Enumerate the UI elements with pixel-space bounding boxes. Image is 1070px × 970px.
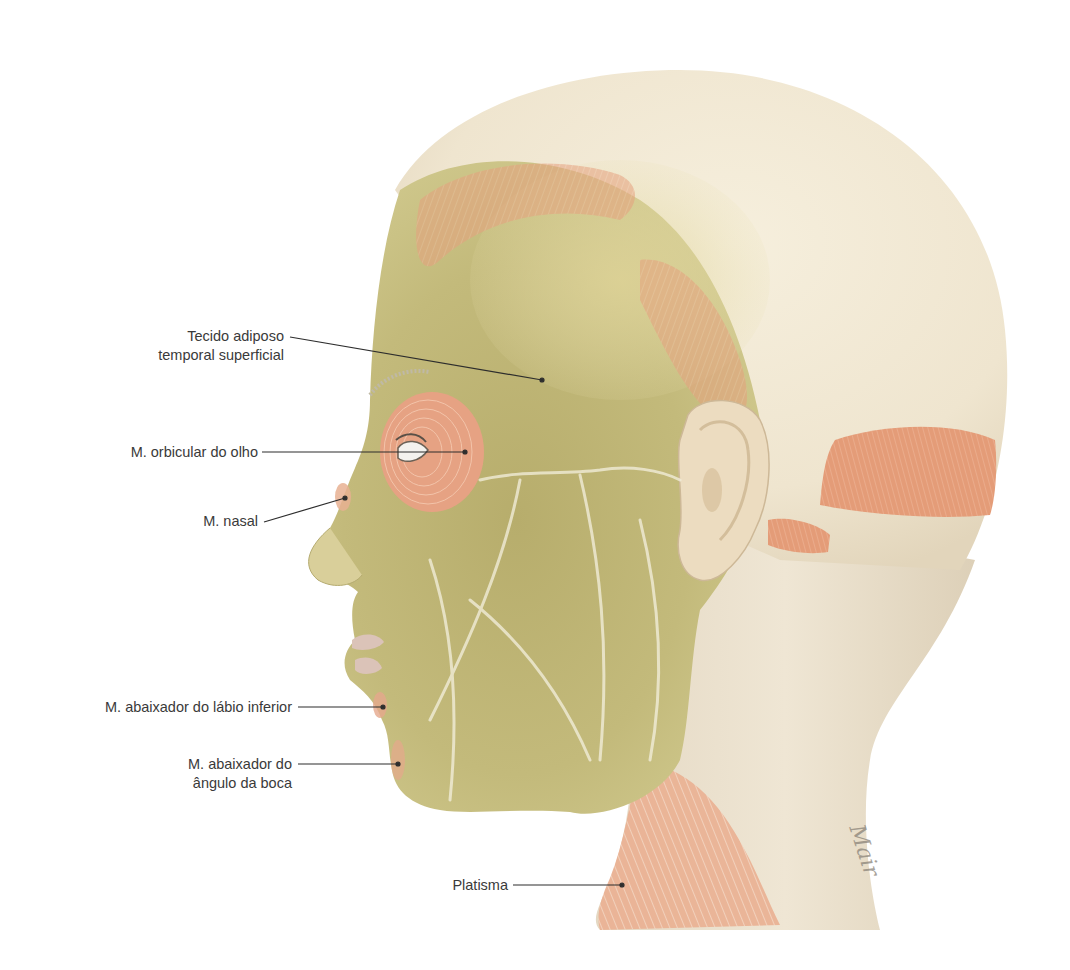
label-line: M. nasal: [203, 512, 258, 531]
label-line: M. abaixador do: [188, 755, 292, 774]
label-abaixador-angulo: M. abaixador do ângulo da boca: [188, 755, 292, 793]
label-line: temporal superficial: [158, 346, 284, 365]
anatomy-illustration: [0, 0, 1070, 970]
occipital-muscle: [820, 427, 996, 517]
depressor-labii-muscle: [373, 692, 387, 718]
label-line: Platisma: [452, 876, 508, 895]
label-orbicular-olho: M. orbicular do olho: [131, 443, 258, 462]
label-platisma: Platisma: [452, 876, 508, 895]
label-line: M. orbicular do olho: [131, 443, 258, 462]
label-line: Tecido adiposo: [158, 327, 284, 346]
label-abaixador-labio: M. abaixador do lábio inferior: [105, 698, 292, 717]
label-line: ângulo da boca: [188, 774, 292, 793]
label-tecido-adiposo: Tecido adiposo temporal superficial: [158, 327, 284, 365]
depressor-anguli-muscle: [391, 740, 405, 780]
label-nasal: M. nasal: [203, 512, 258, 531]
label-line: M. abaixador do lábio inferior: [105, 698, 292, 717]
